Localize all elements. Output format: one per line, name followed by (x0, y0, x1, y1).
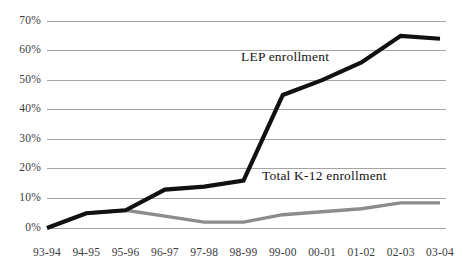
y-axis-tick-label: 70% (0, 14, 41, 26)
series-line-total-k12-enrollment (47, 203, 440, 228)
x-axis-tick-label: 03-04 (414, 246, 463, 258)
y-axis-tick-label: 10% (0, 191, 41, 203)
y-axis-tick-label: 50% (0, 73, 41, 85)
y-axis-tick-label: 40% (0, 102, 41, 114)
series-label-lep-enrollment: LEP enrollment (241, 49, 329, 65)
y-axis-tick-label: 60% (0, 43, 41, 55)
series-label-total-k12-enrollment: Total K-12 enrollment (262, 168, 387, 184)
chart-plot-area (0, 0, 463, 272)
y-axis-tick-label: 20% (0, 161, 41, 173)
enrollment-growth-line-chart: 70%60%50%40%30%20%10%0% 93-9494-9595-969… (0, 0, 463, 272)
y-axis-tick-label: 30% (0, 132, 41, 144)
y-axis-tick-label: 0% (0, 221, 41, 233)
